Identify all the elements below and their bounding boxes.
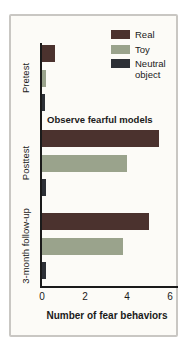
legend-label: Real (135, 29, 177, 40)
category-label: Pretest (19, 63, 32, 93)
legend-swatch-icon (111, 59, 130, 68)
x-tick-label: 4 (120, 291, 134, 302)
legend-label: Toy (135, 44, 177, 55)
x-axis-line (40, 286, 178, 288)
legend-label: Neutral object (135, 58, 177, 80)
category-label: 3-month follow-up (19, 208, 32, 284)
annotation-observe-fearful-models: Observe fearful models (47, 114, 177, 125)
legend-swatch-icon (111, 45, 130, 54)
bar (42, 213, 149, 230)
figure-card: Observe fearful models PretestPosttest3-… (9, 14, 178, 337)
legend-item: Real (111, 29, 177, 40)
x-tick-label: 0 (35, 291, 49, 302)
bar (42, 238, 123, 255)
x-tick-label: 2 (78, 291, 92, 302)
bar (42, 130, 159, 147)
legend-item: Neutral object (111, 58, 177, 80)
x-axis-title: Number of fear behaviors (36, 310, 178, 321)
category-label: Posttest (19, 146, 32, 180)
legend-item: Toy (111, 44, 177, 55)
bar-chart-plot: Observe fearful models PretestPosttest3-… (11, 16, 176, 335)
bar (42, 45, 55, 62)
x-tick-label: 6 (163, 291, 177, 302)
bar (42, 70, 46, 87)
bar (42, 262, 46, 279)
legend-swatch-icon (111, 30, 130, 39)
bar (42, 94, 45, 111)
bar (42, 155, 127, 172)
bar (42, 179, 46, 196)
